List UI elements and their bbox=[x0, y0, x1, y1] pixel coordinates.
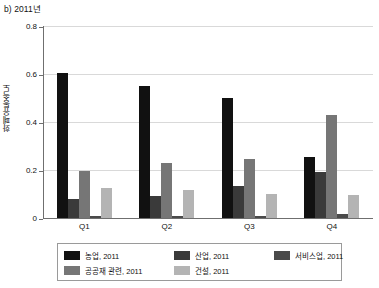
bar bbox=[150, 196, 161, 218]
legend-item[interactable]: 건설, 2011 bbox=[174, 265, 274, 276]
bar bbox=[233, 186, 244, 218]
plot-area: 00.20.40.60.8 Q1Q2Q3Q4 bbox=[43, 26, 373, 219]
legend-swatch bbox=[274, 251, 290, 260]
bar bbox=[255, 216, 266, 218]
bar-groups: Q1Q2Q3Q4 bbox=[43, 26, 373, 218]
bar bbox=[139, 86, 150, 218]
bar bbox=[90, 216, 101, 218]
legend-item[interactable]: 서비스업, 2011 bbox=[274, 250, 343, 261]
y-tick-label: 0.2 bbox=[26, 166, 37, 175]
bar bbox=[244, 159, 255, 218]
x-axis-line bbox=[43, 218, 373, 219]
chart-title: b) 2011년 bbox=[4, 2, 41, 14]
legend-grid: 농업, 2011산업, 2011서비스업, 2011공공재 관련, 2011건설… bbox=[64, 248, 335, 278]
bar-group: Q4 bbox=[291, 26, 374, 218]
legend-swatch bbox=[174, 266, 190, 275]
y-tick-mark bbox=[39, 219, 43, 220]
legend-label: 공공재 관련, 2011 bbox=[85, 265, 142, 276]
bar bbox=[348, 195, 359, 218]
legend-label: 서비스업, 2011 bbox=[295, 250, 343, 261]
legend-swatch bbox=[64, 251, 80, 260]
bar bbox=[183, 190, 194, 218]
x-tick-label: Q3 bbox=[208, 222, 291, 231]
y-tick-label: 0 bbox=[33, 214, 37, 223]
bar bbox=[172, 216, 183, 218]
bar bbox=[161, 163, 172, 218]
legend-swatch bbox=[174, 251, 190, 260]
x-tick-label: Q1 bbox=[43, 222, 126, 231]
bar bbox=[326, 115, 337, 218]
legend-label: 농업, 2011 bbox=[85, 250, 119, 261]
bar bbox=[315, 172, 326, 218]
y-tick-label: 0.6 bbox=[26, 70, 37, 79]
y-tick-label: 0.4 bbox=[26, 118, 37, 127]
bar-group: Q1 bbox=[43, 26, 126, 218]
bar bbox=[304, 157, 315, 218]
bar bbox=[222, 98, 233, 218]
bar bbox=[101, 188, 112, 218]
bar-group: Q3 bbox=[208, 26, 291, 218]
chart-legend: 농업, 2011산업, 2011서비스업, 2011공공재 관련, 2011건설… bbox=[57, 243, 342, 281]
legend-label: 산업, 2011 bbox=[195, 250, 229, 261]
legend-swatch bbox=[64, 266, 80, 275]
x-tick-label: Q4 bbox=[291, 222, 374, 231]
bar bbox=[337, 214, 348, 218]
legend-item[interactable]: 농업, 2011 bbox=[64, 250, 174, 261]
legend-label: 건설, 2011 bbox=[195, 265, 229, 276]
chart-figure: b) 2011년 화폐유통속도 00.20.40.60.8 Q1Q2Q3Q4 농… bbox=[0, 0, 379, 288]
legend-item[interactable]: 공공재 관련, 2011 bbox=[64, 265, 174, 276]
x-tick-label: Q2 bbox=[126, 222, 209, 231]
bar bbox=[79, 171, 90, 218]
bar bbox=[57, 73, 68, 218]
bar bbox=[266, 194, 277, 218]
bar bbox=[68, 199, 79, 218]
y-axis-label: 화폐유통속도 bbox=[2, 84, 14, 132]
y-tick-label: 0.8 bbox=[26, 22, 37, 31]
bar-group: Q2 bbox=[126, 26, 209, 218]
legend-item[interactable]: 산업, 2011 bbox=[174, 250, 274, 261]
